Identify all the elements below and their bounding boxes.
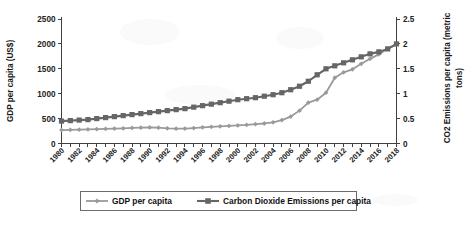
series-marker-co2 (253, 95, 258, 100)
legend-label-0[interactable]: GDP per capita (112, 196, 172, 206)
series-marker-co2 (350, 57, 355, 62)
series-marker-co2 (244, 96, 249, 101)
series-marker-co2 (68, 118, 73, 123)
series-marker-co2 (297, 84, 302, 89)
series-marker-co2 (288, 87, 293, 92)
y-axis-tick-label: 500 (42, 115, 56, 124)
y-axis-tick-label: 2500 (37, 15, 56, 24)
y-axis-tick-label: 0 (51, 140, 56, 149)
series-marker-co2 (270, 92, 275, 97)
scan-blob (120, 19, 180, 45)
right-axis-title: CO2 Emissions per capita (metric (443, 12, 452, 143)
dual-axis-line-chart: 0500100015002000250000.511.522.519801982… (0, 0, 472, 225)
series-marker-co2 (94, 116, 99, 121)
series-marker-co2 (376, 49, 381, 54)
series-marker-co2 (226, 99, 231, 104)
series-marker-co2 (209, 102, 214, 107)
scan-blob (276, 27, 324, 49)
series-marker-co2 (200, 103, 205, 108)
series-marker-co2 (332, 63, 337, 68)
series-marker-co2 (279, 90, 284, 95)
y-axis-tick-label: 1000 (37, 90, 56, 99)
series-marker-co2 (306, 79, 311, 84)
series-marker-co2 (77, 117, 82, 122)
series-marker-co2 (85, 117, 90, 122)
legend-marker-1 (205, 198, 211, 204)
series-marker-co2 (59, 118, 64, 123)
series-marker-co2 (218, 100, 223, 105)
series-marker-co2 (147, 110, 152, 115)
series-marker-co2 (174, 107, 179, 112)
series-marker-co2 (191, 105, 196, 110)
y-axis-tick-label: 2000 (37, 40, 56, 49)
y2-axis-tick-label: 0 (403, 140, 408, 149)
y-axis-tick-label: 1500 (37, 65, 56, 74)
chart-legend[interactable]: GDP per capitaCarbon Dioxide Emissions p… (80, 192, 371, 211)
series-marker-co2 (385, 46, 390, 51)
chart-container: 0500100015002000250000.511.522.519801982… (0, 0, 472, 225)
scan-blob (372, 194, 418, 206)
series-marker-co2 (121, 113, 126, 118)
right-axis-title-line2: tons) (455, 68, 464, 88)
series-marker-co2 (182, 106, 187, 111)
series-marker-co2 (112, 114, 117, 119)
series-marker-co2 (138, 111, 143, 116)
series-marker-co2 (359, 54, 364, 59)
series-marker-co2 (315, 72, 320, 77)
y2-axis-tick-label: 2 (403, 40, 408, 49)
series-marker-co2 (367, 51, 372, 56)
y2-axis-tick-label: 1 (403, 90, 408, 99)
left-axis-title: GDP per capita (US$) (6, 40, 15, 122)
series-marker-co2 (165, 108, 170, 113)
y2-axis-tick-label: 2.5 (403, 15, 415, 24)
series-marker-co2 (323, 66, 328, 71)
series-marker-co2 (262, 94, 267, 99)
legend-label-1[interactable]: Carbon Dioxide Emissions per capita (223, 196, 371, 206)
series-marker-co2 (394, 41, 399, 46)
y2-axis-tick-label: 1.5 (403, 65, 415, 74)
series-marker-co2 (103, 115, 108, 120)
series-marker-co2 (235, 97, 240, 102)
y2-axis-tick-label: 0.5 (403, 115, 415, 124)
series-marker-co2 (156, 109, 161, 114)
series-marker-co2 (129, 112, 134, 117)
series-marker-co2 (341, 60, 346, 65)
